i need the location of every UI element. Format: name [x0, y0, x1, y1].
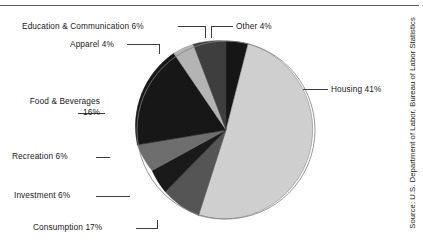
slice-label-investment: Investment 6% — [14, 190, 70, 201]
leader-line-other — [211, 26, 233, 27]
source-credit-text: Source: U.S. Department of Labor, Bureau… — [408, 17, 417, 229]
slice-label-housing: Housing 41% — [331, 84, 381, 95]
leader-line-education — [178, 26, 206, 27]
slice-label-food-beverages: Food & Beverages 16% — [8, 96, 100, 118]
pie-chart-figure: Education & Communication 6% Apparel 4% … — [0, 0, 423, 245]
top-divider-rule — [0, 5, 419, 6]
leader-elbow-consumption — [157, 220, 158, 229]
slice-label-apparel: Apparel 4% — [70, 39, 114, 50]
leader-line-investment — [96, 196, 130, 197]
leader-line-recreation — [96, 157, 110, 158]
pie-svg — [134, 33, 318, 227]
leader-line-housing — [303, 89, 328, 90]
slice-label-other: Other 4% — [236, 21, 272, 32]
source-credit: Source: U.S. Department of Labor, Bureau… — [401, 0, 423, 245]
slice-label-recreation: Recreation 6% — [12, 151, 68, 162]
slice-label-food-beverages-line2: 16% — [83, 107, 100, 117]
slice-label-consumption: Consumption 17% — [33, 222, 102, 233]
leader-elbow-apparel — [159, 44, 160, 54]
leader-elbow-education — [205, 26, 206, 38]
slice-label-education-communication: Education & Communication 6% — [22, 21, 144, 32]
leader-elbow-other — [211, 26, 212, 38]
slice-label-food-beverages-line1: Food & Beverages — [30, 96, 100, 106]
leader-line-consumption — [136, 228, 158, 229]
pie-chart-graphic — [134, 33, 318, 227]
leader-line-apparel — [127, 44, 160, 45]
